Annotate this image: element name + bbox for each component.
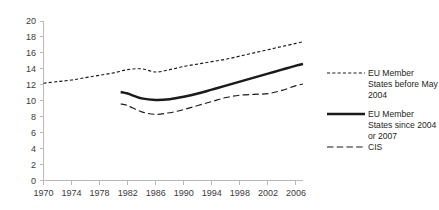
y-tick-label: 2 (31, 160, 36, 170)
x-tick-label: 1998 (230, 188, 250, 198)
x-tick-label: 1978 (90, 188, 110, 198)
y-tick-label: 6 (31, 128, 36, 138)
line-chart-canvas: 02468101214161820 1970197419781982198619… (0, 0, 439, 210)
x-tick-label: 1986 (146, 188, 166, 198)
chart-background (0, 0, 439, 210)
x-tick-label: 1974 (62, 188, 82, 198)
y-tick-label: 0 (31, 176, 36, 186)
legend-label-text: or 2007 (368, 131, 397, 141)
y-tick-label: 18 (26, 32, 36, 42)
y-tick-label: 16 (26, 48, 36, 58)
y-tick-label: 4 (31, 144, 36, 154)
legend-label-text: States since 2004 (368, 120, 437, 130)
x-tick-label: 1990 (174, 188, 194, 198)
y-tick-label: 8 (31, 112, 36, 122)
legend-label-text: EU Member (368, 109, 414, 119)
legend-label-text: EU Member (368, 68, 414, 78)
x-tick-label: 1994 (202, 188, 222, 198)
y-tick-label: 14 (26, 64, 36, 74)
legend-label-text: CIS (368, 142, 383, 152)
x-tick-label: 1970 (33, 188, 53, 198)
y-tick-label: 20 (26, 16, 36, 26)
x-tick-label: 1982 (118, 188, 138, 198)
chart-figure: 02468101214161820 1970197419781982198619… (0, 0, 439, 210)
y-tick-label: 12 (26, 80, 36, 90)
y-tick-label: 10 (26, 96, 36, 106)
x-tick-label: 2006 (286, 188, 306, 198)
legend-label-text: 2004 (368, 90, 387, 100)
legend-label-text: States before May (368, 79, 438, 89)
x-tick-label: 2002 (258, 188, 278, 198)
